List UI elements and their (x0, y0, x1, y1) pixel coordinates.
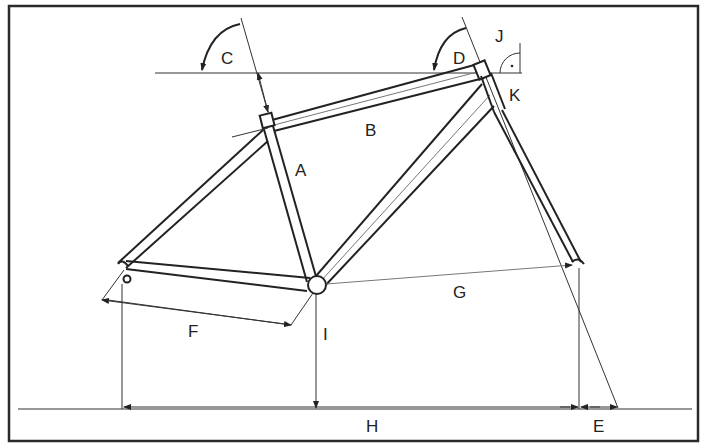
seat-tube (263, 126, 317, 282)
label-d: D (453, 49, 465, 68)
label-b: B (365, 121, 376, 140)
front-dropout (572, 259, 584, 264)
label-e: E (593, 417, 604, 436)
down-tube-center (320, 95, 490, 282)
seat-tube-angle-ref (232, 128, 268, 137)
top-tube-dimension-b (274, 71, 481, 125)
right-angle-dot (511, 65, 514, 68)
label-f: F (188, 322, 198, 341)
rear-dropout (124, 276, 131, 283)
label-k: K (509, 86, 521, 105)
label-c: C (221, 49, 233, 68)
right-angle-arc (500, 53, 520, 73)
chain-stay (126, 261, 310, 291)
label-h: H (366, 417, 378, 436)
label-a: A (295, 161, 307, 180)
diagram-border (9, 6, 698, 441)
fork (494, 110, 581, 262)
label-i: I (323, 325, 328, 344)
label-j: J (495, 27, 504, 46)
rear-dropout-hook (118, 261, 128, 266)
dimension-g-line (326, 265, 572, 284)
bicycle-frame-geometry-diagram: A B C D E F G H I J K (0, 0, 706, 445)
bottom-bracket (308, 276, 326, 294)
seat-stay (118, 130, 268, 268)
seat-tube-top (260, 113, 275, 129)
seat-tube-axis-lower (258, 73, 268, 112)
label-g: G (453, 283, 466, 302)
